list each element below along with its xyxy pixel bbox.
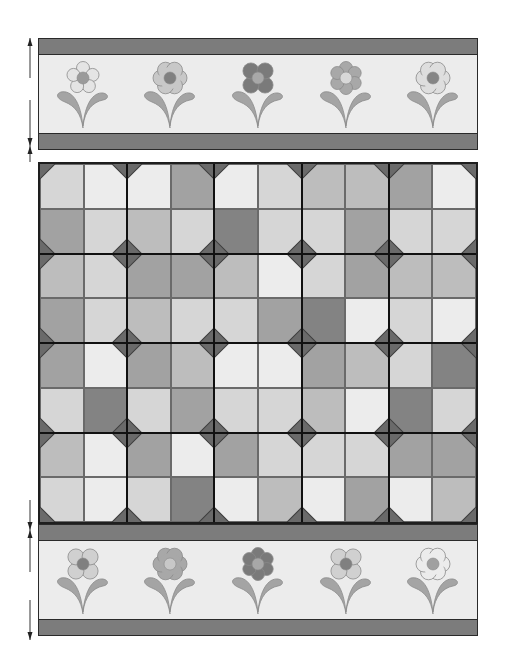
top-flower-border (38, 38, 478, 150)
flower-applique-icon (316, 54, 376, 134)
quilt-block-grid (38, 162, 478, 524)
bottom-border-outer-band (39, 619, 477, 635)
flower-applique-icon (228, 540, 288, 620)
flower-applique-icon (228, 54, 288, 134)
flower-applique-icon (53, 540, 113, 620)
bottom-flower-border (38, 524, 478, 636)
dimension-arrow-icon (28, 530, 32, 572)
dimension-arrow-icon (28, 100, 32, 146)
quilt-pattern (0, 0, 508, 659)
bottom-flower-row (39, 540, 477, 620)
flower-applique-icon (53, 54, 113, 134)
flower-applique-icon (403, 54, 463, 134)
top-flower-row (39, 54, 477, 134)
flower-applique-icon (140, 540, 200, 620)
dimension-arrow-icon (28, 600, 32, 640)
block-seam-horizontal (40, 342, 476, 344)
flower-applique-icon (140, 54, 200, 134)
flower-applique-icon (403, 540, 463, 620)
flower-applique-icon (316, 540, 376, 620)
block-seam-horizontal (40, 432, 476, 434)
top-border-outer-band (39, 39, 477, 55)
dimension-arrow-icon (28, 146, 32, 162)
block-seam-horizontal (40, 253, 476, 255)
dimension-arrow-icon (28, 38, 32, 78)
dimension-arrow-icon (28, 500, 32, 530)
top-border-inner-band (39, 133, 477, 149)
bottom-border-inner-band (39, 525, 477, 541)
